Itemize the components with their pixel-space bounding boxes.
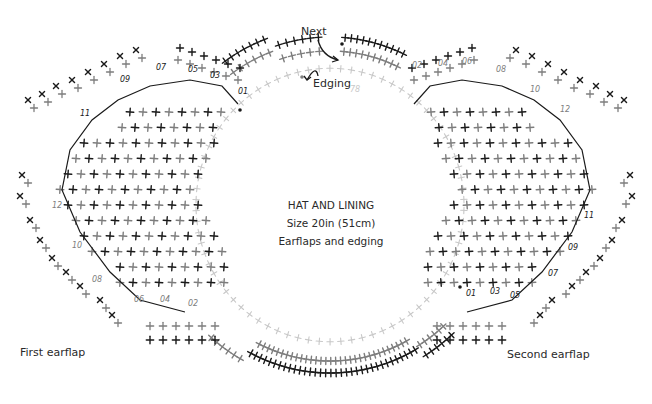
chart-title: HAT AND LINING Size 20in (51cm) Earflaps… bbox=[226, 196, 436, 250]
first-earflap-chart bbox=[17, 45, 243, 344]
svg-text:78: 78 bbox=[350, 85, 360, 94]
svg-text:01: 01 bbox=[238, 87, 248, 96]
second-earflap-label: Second earflap bbox=[507, 348, 590, 361]
title-line-2: Size 20in (51cm) bbox=[226, 214, 436, 232]
edging-bottom-rows bbox=[209, 324, 454, 377]
svg-text:09: 09 bbox=[568, 243, 578, 252]
svg-text:06: 06 bbox=[134, 295, 144, 304]
svg-text:07: 07 bbox=[156, 63, 167, 72]
svg-text:12: 12 bbox=[52, 201, 62, 210]
svg-text:12: 12 bbox=[560, 105, 570, 114]
edging-top-rows bbox=[222, 34, 406, 76]
first-earflap-label: First earflap bbox=[20, 346, 85, 359]
svg-text:04: 04 bbox=[160, 295, 170, 304]
svg-text:03: 03 bbox=[210, 71, 220, 80]
svg-text:08: 08 bbox=[92, 275, 102, 284]
second-earflap-chart bbox=[409, 45, 635, 344]
svg-text:11: 11 bbox=[80, 109, 90, 118]
svg-text:01: 01 bbox=[466, 289, 476, 298]
svg-text:03: 03 bbox=[490, 287, 500, 296]
svg-text:02: 02 bbox=[188, 299, 198, 308]
svg-text:07: 07 bbox=[548, 269, 559, 278]
svg-text:11: 11 bbox=[584, 211, 594, 220]
svg-text:02: 02 bbox=[412, 61, 422, 70]
svg-text:06: 06 bbox=[462, 57, 472, 66]
svg-text:05: 05 bbox=[510, 291, 520, 300]
title-line-3: Earflaps and edging bbox=[226, 232, 436, 250]
svg-text:10: 10 bbox=[72, 241, 82, 250]
svg-text:09: 09 bbox=[120, 75, 130, 84]
edging-label: Edging bbox=[313, 77, 351, 90]
next-label: Next bbox=[301, 25, 327, 38]
svg-text:05: 05 bbox=[188, 65, 198, 74]
svg-text:04: 04 bbox=[438, 59, 448, 68]
svg-text:08: 08 bbox=[496, 65, 506, 74]
title-line-1: HAT AND LINING bbox=[226, 196, 436, 214]
svg-text:10: 10 bbox=[530, 85, 540, 94]
